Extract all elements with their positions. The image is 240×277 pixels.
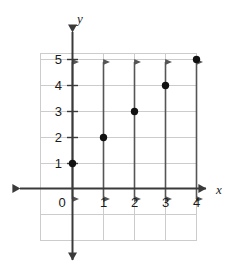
y-axis-label: y xyxy=(75,11,83,26)
data-point-4-5 xyxy=(193,56,200,63)
x-tick-label-2: 2 xyxy=(131,195,138,210)
x-tick-label-1: 1 xyxy=(100,195,107,210)
figure-background xyxy=(0,0,240,277)
y-tick-label-4: 4 xyxy=(55,78,62,93)
origin-label: 0 xyxy=(58,195,65,210)
data-point-0-1 xyxy=(69,160,76,167)
data-point-1-2 xyxy=(100,134,107,141)
graph-svg: 5 4 3 2 1 0 1 2 3 4 y x xyxy=(0,0,240,277)
coordinate-plane-figure: 5 4 3 2 1 0 1 2 3 4 y x xyxy=(0,0,240,277)
x-axis-label: x xyxy=(215,182,222,197)
y-tick-label-1: 1 xyxy=(55,156,62,171)
y-tick-label-2: 2 xyxy=(55,130,62,145)
x-tick-label-4: 4 xyxy=(193,195,200,210)
y-tick-label-3: 3 xyxy=(55,104,62,119)
data-point-3-4 xyxy=(162,82,169,89)
x-tick-label-3: 3 xyxy=(162,195,169,210)
data-point-2-3 xyxy=(131,108,138,115)
y-tick-label-5: 5 xyxy=(55,52,62,67)
